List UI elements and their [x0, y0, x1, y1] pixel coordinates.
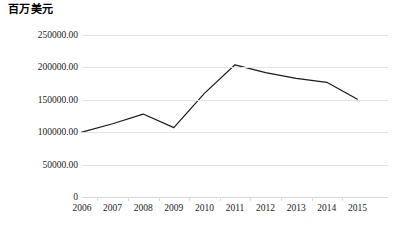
x-axis-tick: [159, 197, 160, 201]
gridline: [82, 100, 388, 101]
gridline: [82, 67, 388, 68]
gridline: [82, 165, 388, 166]
x-axis-tick: [250, 197, 251, 201]
y-axis-tick-label: 0: [0, 192, 78, 202]
x-axis-tick: [128, 197, 129, 201]
x-axis-labels: 2006200720082009201020112012201320142015: [82, 202, 388, 218]
x-axis-tick: [342, 197, 343, 201]
gridline: [82, 35, 388, 36]
x-axis-tick: [189, 197, 190, 201]
x-axis-tick: [281, 197, 282, 201]
plot-area: [82, 35, 388, 197]
x-axis-tick: [312, 197, 313, 201]
chart-figure: 百万美元 050000.00100000.00150000.00200000.0…: [0, 0, 402, 249]
gridline: [82, 132, 388, 133]
line-series-path: [82, 65, 357, 132]
x-axis-tick-label: 2015: [337, 202, 377, 214]
y-axis-tick-label: 150000.00: [0, 95, 78, 105]
y-axis-tick-label: 100000.00: [0, 127, 78, 137]
y-axis-tick-label: 50000.00: [0, 160, 78, 170]
y-axis-tick-label: 200000.00: [0, 62, 78, 72]
x-axis-tick: [97, 197, 98, 201]
y-axis-tick-label: 250000.00: [0, 30, 78, 40]
line-series-svg: [82, 35, 388, 197]
x-axis-tick: [220, 197, 221, 201]
